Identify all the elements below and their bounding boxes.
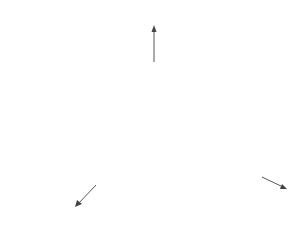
surface-plot <box>0 0 303 249</box>
y-axis <box>262 177 287 189</box>
x-axis <box>75 185 96 207</box>
z-axis <box>152 25 157 62</box>
